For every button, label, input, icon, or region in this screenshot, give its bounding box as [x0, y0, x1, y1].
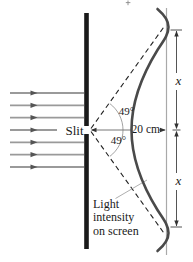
- distance-label: 20 cm: [132, 123, 160, 135]
- caption-line-3: on screen: [93, 224, 139, 238]
- x-label-lower: x: [175, 173, 182, 188]
- diffraction-diagram: 20 cm Slit 49° 49° x x Light intensity o…: [0, 0, 193, 262]
- arrowhead-up-icon: [174, 31, 178, 37]
- slit-label: Slit: [65, 123, 83, 138]
- cropped-top-mark: [126, 1, 131, 6]
- barrier-lower: [84, 134, 89, 249]
- diagram-canvas: 20 cm Slit 49° 49° x x Light intensity o…: [0, 0, 193, 262]
- arrowhead-right-icon: [160, 128, 166, 132]
- intensity-caption: Light intensity on screen: [93, 197, 139, 238]
- barrier-upper: [84, 13, 89, 126]
- ray-arrow-icon: [31, 127, 38, 132]
- ray-arrow-icon: [31, 90, 38, 95]
- arrowhead-down-icon: [174, 221, 178, 227]
- ray-arrow-icon: [31, 140, 38, 145]
- caption-line-2: intensity: [93, 210, 134, 224]
- arrowhead-down-icon: [174, 124, 178, 130]
- ray-arrow-icon: [31, 103, 38, 108]
- ray-arrowheads: [31, 90, 38, 169]
- arrowhead-up-icon: [174, 131, 178, 137]
- ray-arrow-icon: [31, 152, 38, 157]
- caption-line-1: Light: [93, 197, 120, 211]
- ray-arrow-icon: [31, 115, 38, 120]
- angle-label-lower: 49°: [111, 134, 126, 146]
- angle-label-upper: 49°: [119, 105, 134, 117]
- distance-dimension: 20 cm: [91, 123, 166, 135]
- ray-arrow-icon: [31, 164, 38, 169]
- barrier: [84, 13, 89, 249]
- x-label-upper: x: [175, 73, 182, 88]
